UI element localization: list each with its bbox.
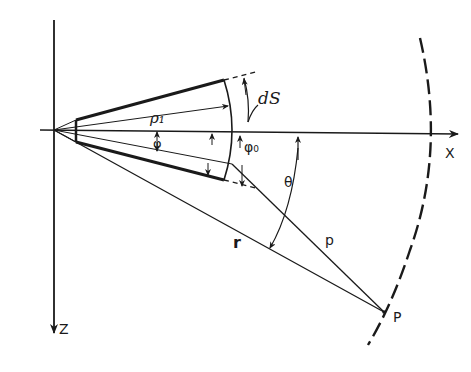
label-rho1: ρ₁ bbox=[149, 109, 165, 127]
dashed-ext-bottom bbox=[224, 180, 256, 188]
dashed-ext-top bbox=[224, 72, 256, 80]
label-theta: θ bbox=[284, 174, 293, 190]
label-phi0: φ₀ bbox=[244, 139, 259, 155]
far-field-arc bbox=[368, 38, 431, 345]
label-p-line: p bbox=[325, 232, 334, 248]
label-dS: dS bbox=[258, 88, 281, 108]
label-z-axis: Z bbox=[59, 321, 69, 337]
point-P bbox=[382, 310, 386, 314]
label-r: r bbox=[233, 233, 241, 252]
sector-outer-arc bbox=[224, 80, 232, 180]
label-phi: φ bbox=[153, 136, 162, 151]
label-x-axis: X bbox=[445, 145, 455, 161]
line-p bbox=[232, 164, 384, 312]
label-P-point: P bbox=[393, 309, 401, 325]
theta-arc bbox=[270, 148, 298, 248]
dS-leader bbox=[248, 105, 258, 122]
x-axis bbox=[40, 130, 458, 134]
line-r bbox=[54, 130, 384, 312]
diagram-canvas: X Z ρ₁ φ φ₀ dS θ r p P bbox=[0, 0, 471, 372]
sector-bottom-edge bbox=[76, 142, 224, 180]
